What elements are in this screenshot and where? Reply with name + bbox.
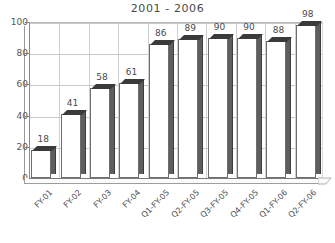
floor-front-edge bbox=[24, 183, 323, 184]
bar-top-face bbox=[209, 34, 234, 39]
bar[interactable] bbox=[237, 38, 257, 178]
bar-side-face bbox=[139, 79, 144, 174]
bar-side-face bbox=[316, 21, 321, 174]
bar-front-face bbox=[237, 38, 257, 178]
bar-front-face bbox=[266, 41, 286, 178]
bar-side-face bbox=[286, 37, 291, 174]
bar-side-face bbox=[169, 40, 174, 174]
bar[interactable] bbox=[31, 150, 51, 178]
bar-value-label: 18 bbox=[23, 134, 63, 144]
bar[interactable] bbox=[296, 25, 316, 178]
chart-title: 2001 - 2006 bbox=[0, 2, 335, 15]
bar-front-face bbox=[208, 38, 228, 178]
bar-value-label: 61 bbox=[111, 67, 151, 77]
bar-value-label: 98 bbox=[288, 9, 328, 19]
bar-side-face bbox=[198, 35, 203, 174]
bar-value-label: 88 bbox=[258, 25, 298, 35]
bar[interactable] bbox=[208, 38, 228, 178]
bar-side-face bbox=[257, 34, 262, 174]
bar[interactable] bbox=[61, 114, 81, 178]
bar-value-label: 41 bbox=[53, 98, 93, 108]
bar-chart: 2001 - 2006 020406080100 184158618689909… bbox=[0, 0, 335, 243]
bar-front-face bbox=[178, 39, 198, 178]
bar[interactable] bbox=[90, 88, 110, 178]
bar[interactable] bbox=[149, 44, 169, 178]
bar[interactable] bbox=[178, 39, 198, 178]
bar-front-face bbox=[296, 25, 316, 178]
floor-left-edge bbox=[24, 178, 29, 183]
bar-front-face bbox=[90, 88, 110, 178]
bar-side-face bbox=[110, 84, 115, 174]
bar-side-face bbox=[228, 34, 233, 174]
bar-front-face bbox=[31, 150, 51, 178]
bar[interactable] bbox=[119, 83, 139, 178]
bars-container: 18415861868990908898 bbox=[29, 22, 323, 178]
bar-front-face bbox=[61, 114, 81, 178]
bar-front-face bbox=[149, 44, 169, 178]
floor-right-wedge bbox=[318, 177, 332, 185]
baseline bbox=[29, 178, 323, 179]
bar-front-face bbox=[119, 83, 139, 178]
bar-side-face bbox=[81, 110, 86, 174]
bar[interactable] bbox=[266, 41, 286, 178]
